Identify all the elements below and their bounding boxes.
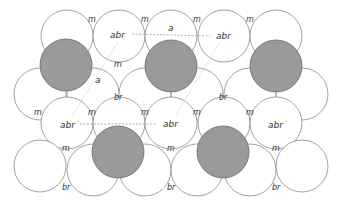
- label-abr-top-right: abr: [216, 31, 232, 41]
- label-abr-mid-right: abr: [268, 120, 284, 130]
- adatom: [145, 40, 197, 92]
- label-m-site: m: [114, 60, 122, 69]
- label-m-site: m: [167, 144, 175, 153]
- label-m-site: m: [193, 15, 201, 24]
- close-packed-lattice-diagram: mmmmmmmmmmmmmbrbrbrbrbr abr a abr a abr …: [0, 0, 339, 202]
- label-br-site: br: [62, 183, 71, 192]
- label-m-site: m: [272, 144, 280, 153]
- label-abr-top-left: abr: [110, 30, 126, 40]
- adatom: [197, 126, 249, 178]
- label-br-site: br: [272, 183, 281, 192]
- substrate-atom: [276, 140, 328, 192]
- label-a-left: a: [95, 75, 101, 85]
- label-a-top: a: [168, 23, 174, 33]
- label-br-site: br: [114, 93, 123, 102]
- substrate-layer: [14, 10, 328, 196]
- adatom: [92, 126, 144, 178]
- label-m-site: m: [34, 108, 42, 117]
- label-br-site: br: [219, 93, 228, 102]
- label-br-site: br: [167, 183, 176, 192]
- label-m-site: m: [193, 108, 201, 117]
- label-abr-mid-left: abr: [60, 120, 76, 130]
- label-m-site: m: [62, 144, 70, 153]
- label-m-site: m: [246, 15, 254, 24]
- substrate-atom: [14, 140, 66, 192]
- label-m-site: m: [141, 15, 149, 24]
- label-m-site: m: [246, 108, 254, 117]
- label-m-site: m: [141, 108, 149, 117]
- label-abr-mid-center: abr: [163, 119, 179, 129]
- label-m-site: m: [88, 108, 96, 117]
- adatom: [40, 39, 92, 91]
- label-m-site: m: [88, 15, 96, 24]
- adatom: [250, 40, 302, 92]
